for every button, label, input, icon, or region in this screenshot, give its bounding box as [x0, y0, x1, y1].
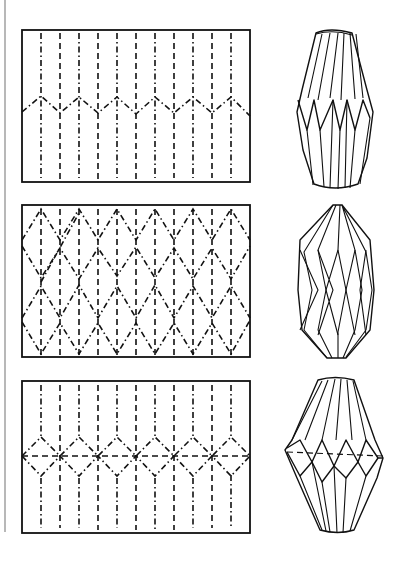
folded-lantern-3 [285, 378, 383, 534]
crease-pattern-3 [22, 381, 250, 533]
folded-lantern-2 [298, 205, 374, 358]
crease-pattern-1 [22, 30, 250, 182]
folded-lantern-1 [297, 30, 373, 189]
origami-diagram: .frame { fill: none; stroke: #111; strok… [0, 0, 404, 561]
crease-pattern-2 [22, 205, 250, 357]
